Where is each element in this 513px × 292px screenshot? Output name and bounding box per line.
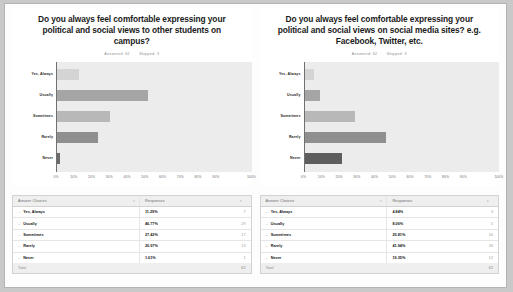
cell-response-count: 17 — [224, 233, 250, 237]
bar — [57, 153, 60, 164]
cell-response-count: 29 — [224, 222, 250, 226]
table-body-2: –Yes, Always4.84%3–Usually8.06%5–Sometim… — [261, 207, 499, 263]
cat-label: Sometimes — [12, 114, 53, 119]
category-axis-1: Yes, Always Usually Sometimes Rarely Nev… — [12, 62, 56, 172]
answer-choice-text: Never — [271, 256, 282, 260]
x-tick: 100% — [481, 174, 499, 186]
bullet-icon: – — [266, 210, 268, 214]
results-table-1: Answer Choices ▾ Responses ▾ –Yes, Alway… — [12, 195, 252, 274]
cell-response-percent: 25.81% — [386, 230, 472, 240]
plot-area-1: Yes, Always Usually Sometimes Rarely Nev… — [12, 62, 252, 172]
bars-plot-1 — [56, 62, 252, 172]
x-tick: 100% — [234, 174, 252, 186]
skipped-count-2: Skipped: 3 — [387, 52, 407, 56]
bar — [57, 90, 148, 101]
cell-response-count: 16 — [472, 233, 498, 237]
cat-label: Rarely — [12, 135, 53, 140]
bar — [305, 111, 355, 122]
bullet-icon: – — [266, 244, 268, 248]
x-tick: 90% — [463, 174, 481, 186]
x-tick: 90% — [216, 174, 234, 186]
cell-answer-choice: –Usually — [13, 222, 139, 226]
plot-area-2: Yes, Always Usually Sometimes Rarely Nev… — [260, 62, 500, 172]
chart-card-2: Do you always feel comfortable expressin… — [260, 8, 500, 186]
table-row: –Yes, Always4.84%3 — [261, 207, 499, 218]
table-row: –Rarely41.94%26 — [261, 241, 499, 252]
x-axis-2: 0%10%20%30%40%50%60%70%80%90%100% — [304, 174, 500, 186]
answer-choice-text: Rarely — [271, 244, 283, 248]
cell-response-count: 12 — [472, 256, 498, 260]
cell-response-percent: 46.77% — [139, 218, 225, 228]
table-row: –Usually8.06%5 — [261, 218, 499, 229]
total-label: Total — [13, 266, 139, 270]
results-table-2: Answer Choices ▾ Responses ▾ –Yes, Alway… — [260, 195, 500, 274]
cat-label: Never — [12, 156, 53, 161]
answered-count-1: Answered: 62 — [104, 52, 130, 56]
table-body-1: –Yes, Always11.29%7–Usually46.77%29–Some… — [13, 207, 251, 263]
bullet-icon: – — [266, 233, 268, 237]
cat-label: Yes, Always — [260, 72, 301, 77]
cell-answer-choice: –Sometimes — [13, 233, 139, 237]
sort-arrow-icon[interactable]: ▾ — [240, 199, 242, 203]
cell-response-count: 3 — [472, 210, 498, 214]
answer-choice-text: Yes, Always — [271, 210, 293, 214]
cell-response-percent: 8.06% — [386, 218, 472, 228]
answer-choice-text: Rarely — [23, 244, 35, 248]
bar — [305, 132, 387, 143]
x-axis-1: 0%10%20%30%40%50%60%70%80%90%100% — [56, 174, 252, 186]
charts-columns: Do you always feel comfortable expressin… — [5, 4, 506, 287]
answer-choice-text: Usually — [271, 222, 285, 226]
table-row: –Yes, Always11.29%7 — [13, 207, 251, 218]
cat-label: Never — [260, 156, 301, 161]
bars-plot-2 — [304, 62, 500, 172]
header-responses: Responses — [392, 199, 412, 203]
cell-response-count: 5 — [472, 222, 498, 226]
cell-response-percent: 11.29% — [139, 207, 225, 217]
answer-choice-text: Usually — [23, 222, 37, 226]
answer-choice-text: Never — [23, 256, 34, 260]
chart-subtitle-2: Answered: 62 Skipped: 3 — [260, 52, 500, 56]
chart-subtitle-1: Answered: 62 Skipped: 3 — [12, 52, 252, 56]
table-row: –Rarely20.97%13 — [13, 241, 251, 252]
answer-choice-text: Yes, Always — [23, 210, 45, 214]
table-row: –Usually46.77%29 — [13, 218, 251, 229]
cell-response-percent: 1.61% — [139, 253, 225, 263]
cell-response-percent: 19.35% — [386, 253, 472, 263]
cell-answer-choice: –Sometimes — [261, 233, 387, 237]
cell-response-percent: 41.94% — [386, 241, 472, 251]
cat-label: Rarely — [260, 135, 301, 140]
table-total-row: Total 62 — [13, 263, 251, 273]
table-header-row: Answer Choices ▾ Responses ▾ — [261, 196, 499, 207]
chart-column-1: Do you always feel comfortable expressin… — [8, 8, 256, 287]
bullet-icon: – — [266, 222, 268, 226]
sort-arrow-icon[interactable]: ▾ — [133, 199, 135, 203]
bullet-icon: – — [18, 210, 20, 214]
total-value: 62 — [386, 266, 498, 270]
header-responses: Responses — [145, 199, 165, 203]
skipped-count-1: Skipped: 3 — [139, 52, 159, 56]
bullet-icon: – — [18, 244, 20, 248]
cat-label: Usually — [260, 93, 301, 98]
answered-count-2: Answered: 62 — [352, 52, 378, 56]
bar — [57, 69, 79, 80]
cell-answer-choice: –Usually — [261, 222, 387, 226]
answer-choice-text: Sometimes — [271, 233, 291, 237]
bar — [57, 111, 110, 122]
cat-label: Sometimes — [260, 114, 301, 119]
cell-response-percent: 27.42% — [139, 230, 225, 240]
answer-choice-text: Sometimes — [23, 233, 43, 237]
bullet-icon: – — [266, 256, 268, 260]
sort-arrow-icon[interactable]: ▾ — [487, 199, 489, 203]
bar — [305, 90, 321, 101]
cell-answer-choice: –Yes, Always — [13, 210, 139, 214]
cell-response-percent: 4.84% — [386, 207, 472, 217]
bar — [57, 132, 98, 143]
sort-arrow-icon[interactable]: ▾ — [380, 199, 382, 203]
table-row: –Sometimes27.42%17 — [13, 230, 251, 241]
table-total-row: Total 62 — [261, 263, 499, 273]
cell-answer-choice: –Rarely — [13, 244, 139, 248]
bullet-icon: – — [18, 233, 20, 237]
chart-title-2: Do you always feel comfortable expressin… — [260, 8, 500, 48]
total-value: 62 — [139, 266, 251, 270]
cat-label: Yes, Always — [12, 72, 53, 77]
